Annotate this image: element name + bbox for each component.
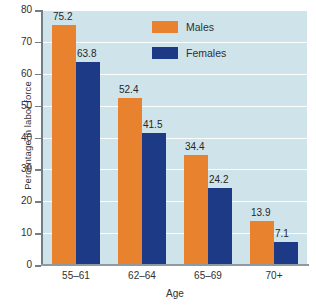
legend-item-females: Females [152,43,256,63]
x-axis-category-label: 70+ [241,270,307,281]
legend-label-females: Females [186,47,226,59]
x-axis-title: Age [43,288,307,299]
legend-swatch-males-icon [152,21,178,33]
y-axis-tick [35,233,41,235]
bar-males [184,155,208,265]
bar-females [76,62,100,265]
bar-value-label: 41.5 [143,120,162,130]
bar-value-label: 63.8 [77,49,96,59]
y-axis-tick [35,138,41,140]
bar-value-label: 34.4 [185,142,204,152]
legend: Males Females [152,17,256,69]
y-axis-tick-label: 10 [4,228,32,238]
gridline [43,10,307,11]
x-axis-line [41,264,309,266]
legend-label-males: Males [186,21,214,33]
y-axis-tick-label: 50 [4,101,32,111]
bar-value-label: 7.1 [275,229,289,239]
bar-males [118,98,142,265]
y-axis-tick [35,169,41,171]
y-axis-tick-label: 20 [4,196,32,206]
x-axis-category-label: 65–69 [175,270,241,281]
bar-females [274,242,298,265]
bar-value-label: 24.2 [209,175,228,185]
bar-males [250,221,274,265]
bar-females [208,188,232,265]
x-axis-category-label: 55–61 [43,270,109,281]
x-axis-category-label: 62–64 [109,270,175,281]
y-axis-tick-label: 80 [4,5,32,15]
y-axis-tick-label: 30 [4,164,32,174]
y-axis-tick [35,74,41,76]
y-axis-tick [35,201,41,203]
bar-value-label: 75.2 [53,12,72,22]
y-axis-line [41,10,43,266]
bar-value-label: 52.4 [119,85,138,95]
y-axis-tick [35,265,41,267]
y-axis-tick-label: 40 [4,133,32,143]
y-axis-tick-label: 70 [4,37,32,47]
bar-chart-figure: Percentage in labor force 75.263.852.441… [0,0,316,307]
legend-swatch-females-icon [152,47,178,59]
bar-females [142,133,166,265]
legend-item-males: Males [152,17,256,37]
bar-value-label: 13.9 [251,208,270,218]
y-axis-tick [35,106,41,108]
y-axis-tick [35,10,41,12]
bar-males [52,25,76,265]
y-axis-tick-label: 60 [4,69,32,79]
y-axis-tick-label: 0 [4,260,32,270]
y-axis-tick [35,42,41,44]
